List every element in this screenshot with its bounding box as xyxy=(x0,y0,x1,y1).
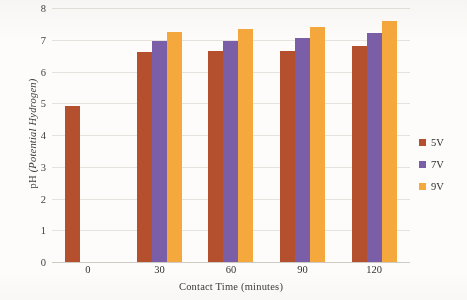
x-axis-tick-labels: 0306090120 xyxy=(52,264,410,282)
legend-label: 7V xyxy=(431,159,444,170)
legend: 5V7V9V xyxy=(419,131,444,197)
bar-5V-120 xyxy=(352,46,367,262)
x-axis-tick-label: 30 xyxy=(129,264,189,275)
bars-layer xyxy=(52,8,410,262)
legend-item-5V[interactable]: 5V xyxy=(419,131,444,153)
bar-9V-90 xyxy=(310,27,325,262)
bar-5V-30 xyxy=(137,52,152,262)
bar-group xyxy=(338,8,410,262)
y-axis-tick-label: 7 xyxy=(22,34,46,45)
y-axis-tick-labels: 012345678 xyxy=(22,0,46,300)
x-axis-tick-label: 120 xyxy=(344,264,404,275)
bar-7V-60 xyxy=(223,41,238,262)
x-axis-tick-label: 0 xyxy=(58,264,118,275)
y-axis-tick-label: 2 xyxy=(22,193,46,204)
bar-9V-120 xyxy=(382,21,397,262)
legend-swatch-icon xyxy=(419,161,426,168)
y-axis-tick-label: 8 xyxy=(22,3,46,14)
bar-9V-60 xyxy=(238,29,253,262)
x-axis-tick-label: 60 xyxy=(201,264,261,275)
bar-5V-0 xyxy=(65,106,80,262)
y-axis-tick-label: 1 xyxy=(22,225,46,236)
legend-swatch-icon xyxy=(419,139,426,146)
bar-chart: pH (Potential Hydrogen) 012345678 030609… xyxy=(0,0,467,300)
legend-label: 9V xyxy=(431,181,444,192)
gridline xyxy=(52,262,410,263)
legend-swatch-icon xyxy=(419,183,426,190)
y-axis-tick-label: 4 xyxy=(22,130,46,141)
bar-group xyxy=(124,8,196,262)
bar-7V-120 xyxy=(367,33,382,262)
bar-9V-30 xyxy=(167,32,182,262)
y-axis-tick-label: 5 xyxy=(22,98,46,109)
legend-label: 5V xyxy=(431,137,444,148)
bar-group xyxy=(267,8,339,262)
y-axis-tick-label: 6 xyxy=(22,66,46,77)
x-axis-tick-label: 90 xyxy=(273,264,333,275)
bar-group xyxy=(52,8,124,262)
y-axis-tick-label: 0 xyxy=(22,257,46,268)
bar-7V-90 xyxy=(295,38,310,262)
legend-item-9V[interactable]: 9V xyxy=(419,175,444,197)
bar-group xyxy=(195,8,267,262)
bar-5V-60 xyxy=(208,51,223,262)
y-axis-tick-label: 3 xyxy=(22,161,46,172)
bar-5V-90 xyxy=(280,51,295,262)
bar-7V-30 xyxy=(152,41,167,262)
plot-area xyxy=(52,8,410,262)
x-axis-title: Contact Time (minutes) xyxy=(52,281,410,292)
legend-item-7V[interactable]: 7V xyxy=(419,153,444,175)
